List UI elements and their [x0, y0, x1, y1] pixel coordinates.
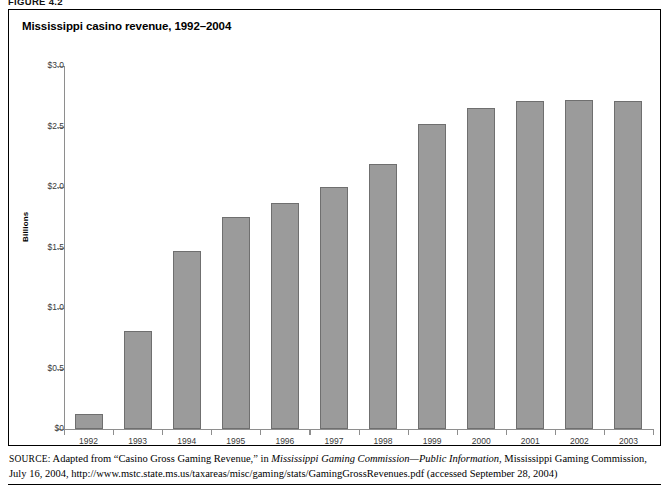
x-tick-label-1992: 1992	[64, 436, 114, 446]
bar-1994	[173, 251, 201, 429]
chart-plot-area: Billions $0$0.5$1.0$1.5$2.0$2.5$3.0 1992…	[9, 10, 660, 445]
y-tick-label: $1.5	[22, 242, 64, 252]
figure-number-label: FIGURE 4.2	[8, 0, 63, 8]
bar-series	[64, 66, 653, 429]
bottom-rule	[8, 484, 661, 485]
x-tick-mark	[604, 429, 605, 435]
bar-1998	[369, 164, 397, 429]
x-tick-label-1997: 1997	[309, 436, 359, 446]
x-tick-mark	[408, 429, 409, 435]
bar-1995	[222, 217, 250, 429]
bar-2002	[565, 100, 593, 429]
bar-2001	[516, 101, 544, 429]
y-tick-label: $2.0	[22, 181, 64, 191]
source-note: SOURCE: Adapted from “Casino Gross Gamin…	[9, 452, 657, 481]
y-tick-label: $1.0	[22, 302, 64, 312]
source-line1-pre: Adapted from “Casino Gross Gaming Revenu…	[51, 453, 272, 464]
x-tick-label-1999: 1999	[407, 436, 457, 446]
bar-1996	[271, 203, 299, 429]
x-tick-mark	[653, 429, 654, 435]
x-tick-label-1998: 1998	[358, 436, 408, 446]
figure-frame: Mississippi casino revenue, 1992–2004 Bi…	[8, 9, 661, 446]
bar-1999	[418, 124, 446, 429]
x-tick-mark	[113, 429, 114, 435]
bar-1997	[320, 187, 348, 429]
x-tick-mark	[260, 429, 261, 435]
y-tick-label: $2.5	[22, 121, 64, 131]
y-tick-label: $3.0	[22, 60, 64, 70]
y-axis-title: Billions	[21, 212, 30, 243]
x-tick-mark	[457, 429, 458, 435]
x-tick-mark	[555, 429, 556, 435]
source-kicker: SOURCE:	[9, 454, 51, 464]
x-tick-label-1994: 1994	[162, 436, 212, 446]
x-tick-mark	[162, 429, 163, 435]
bar-1993	[124, 331, 152, 429]
x-tick-mark	[64, 429, 65, 435]
x-tick-mark	[211, 429, 212, 435]
x-tick-label-1995: 1995	[211, 436, 261, 446]
y-tick-label: $0.5	[22, 363, 64, 373]
source-line2: July 16, 2004, http://www.mstc.state.ms.…	[9, 468, 557, 479]
x-tick-mark	[309, 429, 310, 435]
x-tick-mark	[359, 429, 360, 435]
source-publication-title: Mississippi Gaming Commission—Public Inf…	[271, 453, 499, 464]
bar-2003	[614, 101, 642, 429]
x-tick-label-1996: 1996	[260, 436, 310, 446]
x-tick-label-2001: 2001	[505, 436, 555, 446]
source-line1-post: , Mississippi Gaming Commission,	[499, 453, 647, 464]
x-tick-mark	[506, 429, 507, 435]
x-tick-label-2000: 2000	[456, 436, 506, 446]
bar-2000	[467, 108, 495, 429]
x-tick-label-2002: 2002	[554, 436, 604, 446]
x-tick-label-1993: 1993	[113, 436, 163, 446]
bar-1992	[75, 414, 103, 429]
y-tick-label: $0	[22, 423, 64, 433]
x-tick-label-2003: 2003	[603, 436, 653, 446]
